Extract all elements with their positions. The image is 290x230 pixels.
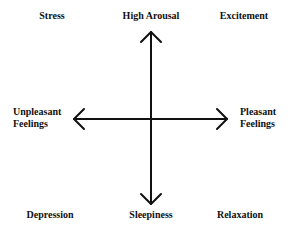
label-depression: Depression [26, 209, 73, 221]
label-pleasant-feelings: Pleasant Feelings [240, 106, 276, 130]
label-unpleasant-line2: Feelings [13, 118, 61, 130]
label-unpleasant-line1: Unpleasant [13, 106, 61, 118]
label-pleasant-line2: Feelings [240, 118, 276, 130]
label-excitement: Excitement [220, 10, 268, 22]
label-relaxation: Relaxation [217, 209, 263, 221]
label-unpleasant-feelings: Unpleasant Feelings [13, 106, 61, 130]
label-stress: Stress [39, 10, 64, 22]
label-pleasant-line1: Pleasant [240, 106, 276, 118]
label-sleepiness: Sleepiness [129, 209, 172, 221]
label-high-arousal: High Arousal [123, 10, 180, 22]
